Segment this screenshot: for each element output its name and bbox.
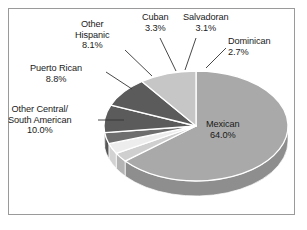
slice-label-other-hispanic: Other Hispanic 8.1% [75,19,109,51]
pie-chart-figure: Mexican 64.0% Dominican 2.7% Salvadoran … [0,0,307,230]
slice-label-mexican: Mexican 64.0% [206,119,240,140]
leader-line-cuban [160,38,176,71]
slice-label-salvadoran: Salvadoran 3.1% [183,12,228,33]
leader-line-other-hispanic [125,50,152,76]
slice-label-dominican: Dominican 2.7% [228,36,271,57]
leader-line-dominican [206,48,226,68]
slice-label-cuban: Cuban 3.3% [142,12,169,33]
leader-line-salvadoran [185,38,196,70]
slice-label-other-central-south-american: Other Central/ South American 10.0% [8,104,71,136]
slice-label-puerto-rican: Puerto Rican 8.8% [30,63,82,84]
leader-line-puerto-rican [106,72,132,89]
pie-top-surface [104,71,288,181]
